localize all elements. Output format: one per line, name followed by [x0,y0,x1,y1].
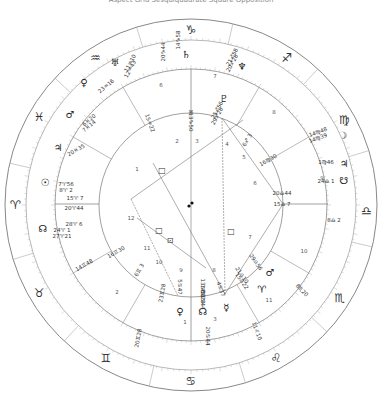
cusp-mc: 13♑50 [188,113,194,132]
sun-position: 8♈ 2 [59,187,73,193]
house-number-9: 9 [320,175,324,181]
cusp-3: 11♌10 [251,321,263,341]
square-aspect-3-icon: □ [155,226,163,235]
moon-icon: ☽ [339,130,348,141]
venus-position: 23♒16 [97,77,116,94]
cusp-10b: 23♊28 [157,283,166,303]
cusp-1-node: 20♈44 [65,205,84,211]
house-number-11: 11 [144,245,151,251]
cusp-11b: 6♊ 3 [133,262,145,277]
venus-r-icon: ♀ [176,306,183,317]
house-number-2: 2 [175,138,179,144]
venus-r-position: 5♋47 [177,279,183,295]
aspect-line-1 [131,120,243,199]
cusp-5: 6♐ 3 [241,132,253,147]
aries-point-icon: ♈ [258,284,267,295]
chart-center [187,201,193,207]
aspect-glyphs: □□□⊡ [155,166,235,245]
mercury-icon: ☿ [223,302,229,313]
cusp-7: 15♎ 7 [273,201,291,207]
mars-r-icon: ♂ [266,267,275,278]
house-number-6: 6 [253,180,257,186]
sign-taurus-icon: ♉ [34,286,45,300]
center-dot-icon [187,204,190,207]
house-number-11: 11 [266,297,273,303]
sign-pisces-icon: ♓ [34,110,45,124]
square-aspect-2-icon: □ [227,227,235,236]
cusp-12-outer: 14♊48 [74,257,94,272]
aspect-line-2 [131,199,178,296]
sign-sagittarius-icon: ♐ [281,51,292,65]
aspect-line-4 [225,204,283,294]
house-number-9: 9 [179,267,183,273]
sun-icon: ☉ [41,177,50,188]
natal-chart-wheel: ♑♐♍♎♏♌♋♊♉♈♓♒ ♄14♑58♆21♐5820♐28♇25♐5629♐2… [0,0,382,397]
cusp-ic: 20♋44 [205,327,211,346]
house-number-7: 7 [248,234,252,240]
sign-capricorn-icon: ♑ [186,23,197,37]
sign-scorpio-icon: ♏ [334,291,345,305]
house-number-10: 10 [301,248,308,254]
sign-aries-icon: ♈ [10,198,21,212]
house-number-7: 7 [213,73,217,79]
cusp-1: 15♈ 7 [66,195,84,201]
jupiter-icon: ♃ [54,142,63,153]
house-number-3: 3 [195,138,199,144]
sign-leo-icon: ♌ [271,351,282,365]
mars-icon: ♂ [66,109,75,120]
aspect-line-6 [153,163,225,294]
cusp-mc-outer: 20♑44 [160,42,166,61]
south-node-icon: ☋ [340,175,349,186]
cusp-2: 15♒22 [144,113,156,133]
house-number-3: 3 [213,316,217,322]
house-number-1: 1 [135,166,139,172]
sign-virgo-icon: ♍ [339,113,350,127]
north-node-icon: ☊ [39,223,48,234]
sign-cancer-icon: ♋ [186,374,197,388]
square-aspect-1-icon: □ [158,166,166,175]
house-number-8: 8 [212,267,216,273]
sign-gemini-icon: ♊ [101,351,112,365]
uranus-icon: ♅ [111,57,120,68]
neptune-icon: ♆ [238,61,247,72]
house-number-12: 12 [128,215,135,221]
south-node-inner: 28♈ 6 [65,221,83,227]
sesquiquadrate-aspect-icon: ⊡ [167,236,174,245]
sign-libra-icon: ♎ [361,204,372,218]
jupiter-r-icon: ♃ [340,158,349,169]
house-number-5: 5 [242,154,246,160]
house-number-6: 6 [159,82,163,88]
planet-glyphs: ♄14♑58♆21♐5820♐28♇25♐5629♐28♅11♒1012♒43♀… [39,30,349,316]
sign-aquarius-icon: ♒ [90,51,101,65]
saturn-position: 14♑58 [175,30,181,49]
saturn-icon: ♄ [182,49,191,60]
house-number-10: 10 [156,259,163,265]
outer-8: 8♎ 2 [327,217,341,223]
house-number-4: 4 [225,141,229,147]
house-number-2: 2 [115,289,119,295]
cusp-10-outer: 20♊28 [133,328,142,348]
north-node-r-position: 13♋44 [200,291,206,310]
north-node-position: 27♈21 [53,233,72,239]
venus-icon: ♀ [80,77,87,88]
mars-r-position: 29♎56 [248,253,264,272]
house-number-8: 8 [272,109,276,115]
house-number-1: 1 [183,319,187,325]
cusp-7-node: 20♎44 [273,190,292,196]
jupiter-r-position: 1♍46 [318,159,334,165]
